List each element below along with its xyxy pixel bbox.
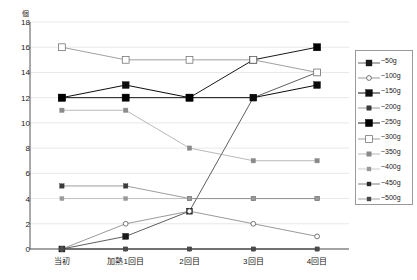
- series-300g: [59, 44, 321, 76]
- legend-item-label: ~450g: [380, 179, 401, 186]
- x-tick-label: 加熱1回目: [107, 255, 143, 266]
- x-tick-label: 2回目: [179, 255, 199, 266]
- legend-item[interactable]: ~150g: [356, 83, 412, 98]
- legend-item[interactable]: ~200g: [356, 99, 412, 114]
- x-tick-label: 4回目: [307, 255, 327, 266]
- legend-item-label: ~500g: [380, 194, 401, 201]
- series-400g: [60, 197, 319, 201]
- y-tick-label: 18: [8, 18, 30, 27]
- y-tick-label: 6: [8, 169, 30, 178]
- y-tick-label: 14: [8, 68, 30, 77]
- x-tick-label: 当初: [54, 255, 70, 266]
- y-tick-label: 4: [8, 195, 30, 204]
- series-500g: [60, 247, 319, 251]
- y-tick-label: 2: [8, 220, 30, 229]
- legend-item[interactable]: ~50g: [356, 53, 412, 68]
- y-tick-label: 8: [8, 144, 30, 153]
- legend-item[interactable]: ~300g: [356, 129, 412, 144]
- legend-marker-icon: [358, 146, 380, 158]
- legend-item[interactable]: ~400g: [356, 159, 412, 174]
- legend-marker-icon: [358, 85, 380, 97]
- legend-item-label: ~350g: [380, 148, 401, 155]
- y-tick-label: 10: [8, 119, 30, 128]
- chart-legend: ~50g~100g~150g~200g~250g~300g~350g~400g~…: [355, 50, 413, 205]
- series-100g: [60, 209, 320, 252]
- series-350g: [60, 108, 320, 163]
- legend-item-label: ~300g: [380, 133, 401, 140]
- legend-item-label: ~200g: [380, 103, 401, 110]
- legend-marker-icon: [358, 191, 380, 203]
- legend-item-label: ~400g: [380, 163, 401, 170]
- y-tick-label: 12: [8, 94, 30, 103]
- legend-item[interactable]: ~450g: [356, 175, 412, 190]
- legend-item[interactable]: ~350g: [356, 144, 412, 159]
- legend-item-label: ~150g: [380, 87, 401, 94]
- y-tick-label: 16: [8, 43, 30, 52]
- y-tick-label: 0: [8, 245, 30, 254]
- legend-item[interactable]: ~100g: [356, 68, 412, 83]
- legend-marker-icon: [358, 131, 380, 143]
- legend-item-label: ~250g: [380, 118, 401, 125]
- x-tick-label: 3回目: [243, 255, 263, 266]
- legend-marker-icon: [358, 176, 380, 188]
- legend-marker-icon: [358, 55, 380, 67]
- legend-marker-icon: [358, 115, 380, 127]
- legend-item-label: ~100g: [380, 72, 401, 79]
- legend-marker-icon: [358, 70, 380, 82]
- legend-marker-icon: [358, 100, 380, 112]
- legend-item[interactable]: ~500g: [356, 190, 412, 205]
- legend-item[interactable]: ~250g: [356, 114, 412, 129]
- legend-item-label: ~50g: [380, 57, 397, 64]
- line-chart: 個 024681012141618 当初加熱1回目2回目3回目4回目 ~50g~…: [0, 0, 417, 280]
- legend-marker-icon: [358, 161, 380, 173]
